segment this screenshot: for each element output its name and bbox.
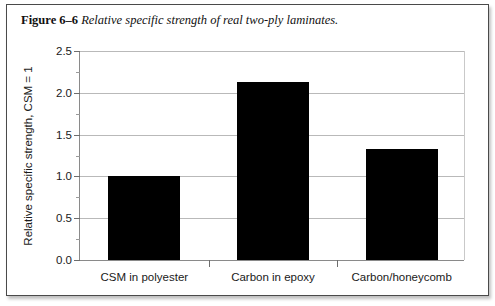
- y-gridline: [80, 51, 464, 52]
- bar: [237, 82, 309, 260]
- x-axis-category-label: Carbon in epoxy: [231, 271, 315, 283]
- bar-chart: Relative specific strength, CSM = 1 0.00…: [7, 5, 490, 297]
- y-axis-tick-label: 2.0: [56, 87, 72, 99]
- y-axis-tick-major: [74, 135, 80, 136]
- bar: [366, 149, 438, 260]
- y-axis-tick-minor: [76, 72, 80, 73]
- y-axis-tick-label: 0.0: [56, 254, 72, 266]
- y-axis-tick-label: 1.0: [56, 170, 72, 182]
- y-axis-tick-label: 0.5: [56, 212, 72, 224]
- x-axis-category-label: Carbon/honeycomb: [351, 271, 451, 283]
- x-axis-category-label: CSM in polyester: [101, 271, 189, 283]
- x-axis-tick: [337, 260, 338, 267]
- y-gridline: [80, 260, 464, 261]
- bar: [108, 176, 180, 260]
- y-axis-tick-minor: [76, 239, 80, 240]
- y-axis-tick-major: [74, 93, 80, 94]
- plot-area: Relative specific strength, CSM = 1 0.00…: [79, 51, 465, 260]
- y-axis-tick-label: 1.5: [56, 129, 72, 141]
- x-axis-tick: [209, 260, 210, 267]
- y-axis-tick-major: [74, 176, 80, 177]
- y-axis-tick-major: [74, 218, 80, 219]
- figure-page: Figure 6–6 Relative specific strength of…: [6, 4, 489, 296]
- y-axis-tick-major: [74, 260, 80, 261]
- y-axis-tick-label: 2.5: [56, 45, 72, 57]
- y-axis-tick-minor: [76, 197, 80, 198]
- y-axis-tick-major: [74, 51, 80, 52]
- y-axis-tick-minor: [76, 156, 80, 157]
- y-axis-title: Relative specific strength, CSM = 1: [22, 66, 34, 245]
- y-axis-tick-minor: [76, 114, 80, 115]
